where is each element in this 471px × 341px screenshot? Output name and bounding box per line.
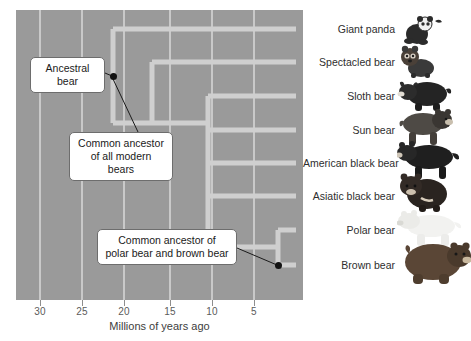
gridline-5 [253, 10, 255, 300]
ancestral-bear-node-dot [110, 73, 117, 80]
taxon-label-sun-bear: Sun bear [303, 122, 395, 138]
tick-label-25: 25 [67, 306, 97, 317]
ancestral-bear-callout: Ancestral bear [30, 57, 105, 93]
tick-label-15: 15 [155, 306, 185, 317]
taxon-asiatic-black-bear: Asiatic black bear [303, 188, 463, 204]
taxon-label-american-black-bear: American black bear [303, 155, 395, 171]
taxon-label-polar-bear: Polar bear [303, 222, 395, 238]
taxon-american-black-bear: American black bear [303, 155, 463, 171]
taxon-label-sloth-bear: Sloth bear [303, 88, 395, 104]
gridline-30 [39, 10, 41, 300]
tick-label-5: 5 [239, 306, 269, 317]
tick-label-10: 10 [197, 306, 227, 317]
taxon-giant-panda: Giant panda [303, 21, 463, 37]
taxon-brown-bear: Brown bear [303, 257, 463, 273]
taxon-sun-bear: Sun bear [303, 122, 463, 138]
common-ancestor-polar-brown-callout: Common ancestor of polar bear and brown … [97, 229, 237, 265]
time-axis: 30 25 20 15 10 5 [0, 300, 463, 308]
taxon-label-brown-bear: Brown bear [303, 257, 395, 273]
common-ancestor-modern-bears-callout: Common ancestor of all modern bears [69, 132, 173, 181]
polar-brown-node-dot [275, 262, 282, 269]
taxon-label-asiatic-black-bear: Asiatic black bear [303, 188, 395, 204]
taxon-sloth-bear: Sloth bear [303, 88, 463, 104]
taxon-label-spectacled-bear: Spectacled bear [303, 54, 395, 70]
taxon-label-giant-panda: Giant panda [303, 21, 395, 37]
taxon-spectacled-bear: Spectacled bear [303, 54, 463, 70]
tick-label-20: 20 [109, 306, 139, 317]
brown-bear-icon [397, 238, 471, 288]
axis-title: Millions of years ago [16, 320, 303, 332]
tick-label-30: 30 [25, 306, 55, 317]
taxon-polar-bear: Polar bear [303, 222, 463, 238]
